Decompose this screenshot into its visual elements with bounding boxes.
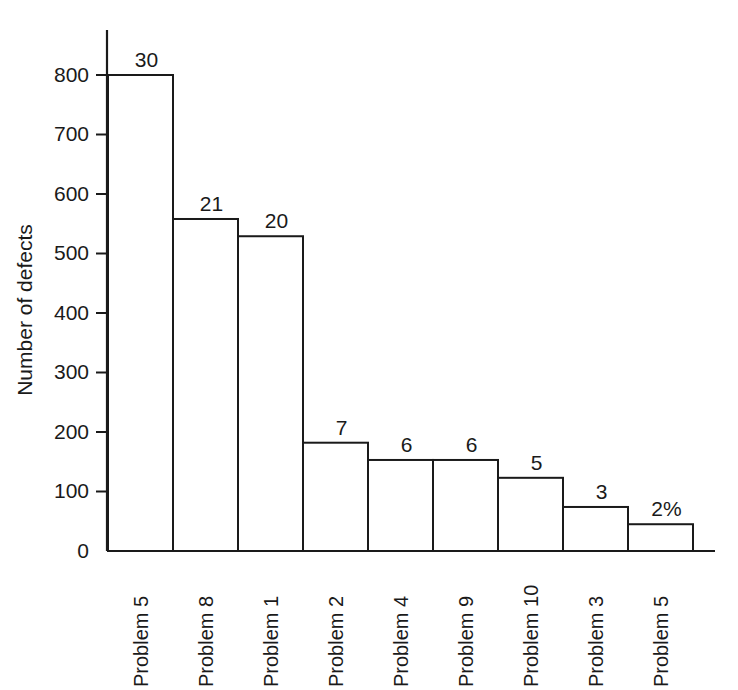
bar-value-label: 6 — [401, 433, 413, 456]
pareto-chart: 0100200300400500600700800 302120766532% … — [0, 0, 738, 690]
bar-value-label: 30 — [135, 48, 158, 71]
x-axis-category-label: Problem 5 — [130, 596, 152, 687]
y-axis-tick-label: 600 — [54, 182, 89, 205]
y-axis-tick-label: 700 — [54, 122, 89, 145]
bar[interactable] — [628, 524, 693, 551]
bar[interactable] — [368, 460, 433, 551]
x-axis-category-label: Problem 2 — [325, 596, 347, 687]
y-axis-tick-label: 200 — [54, 420, 89, 443]
x-axis-category-label: Problem 5 — [650, 596, 672, 687]
y-axis-title: Number of defects — [13, 224, 36, 396]
y-axis-tick-label: 500 — [54, 241, 89, 264]
y-axis-tick-label: 0 — [77, 539, 89, 562]
bar[interactable] — [173, 219, 238, 551]
y-axis-ticks-group — [96, 75, 107, 492]
y-axis-tick-label: 100 — [54, 479, 89, 502]
x-axis-category-label: Problem 9 — [455, 596, 477, 687]
bar-value-label: 7 — [336, 416, 348, 439]
bar[interactable] — [498, 478, 563, 551]
x-axis-category-label: Problem 1 — [260, 596, 282, 687]
x-axis-category-label: Problem 8 — [195, 596, 217, 687]
x-axis-category-label: Problem 4 — [390, 596, 412, 687]
y-axis-tick-label: 400 — [54, 301, 89, 324]
bar[interactable] — [563, 507, 628, 551]
bar[interactable] — [433, 460, 498, 551]
y-axis-tick-label: 300 — [54, 360, 89, 383]
bar[interactable] — [108, 75, 173, 551]
y-axis-tick-label: 800 — [54, 63, 89, 86]
y-axis-title-group: Number of defects — [13, 224, 36, 396]
chart-canvas: 0100200300400500600700800 302120766532% … — [0, 0, 738, 690]
x-axis-category-label: Problem 10 — [520, 585, 542, 687]
bar[interactable] — [303, 443, 368, 551]
bar-value-label: 2% — [651, 497, 681, 520]
y-axis-tick-labels: 0100200300400500600700800 — [54, 63, 89, 562]
bar-value-label: 5 — [531, 451, 543, 474]
bar-value-label: 21 — [200, 192, 223, 215]
bar-value-label: 6 — [466, 433, 478, 456]
bar[interactable] — [238, 236, 303, 551]
x-axis-category-label: Problem 3 — [585, 596, 607, 687]
x-axis-category-labels: Problem 5Problem 8Problem 1Problem 2Prob… — [130, 585, 672, 687]
bar-value-label: 20 — [265, 209, 288, 232]
bar-value-label: 3 — [596, 480, 608, 503]
